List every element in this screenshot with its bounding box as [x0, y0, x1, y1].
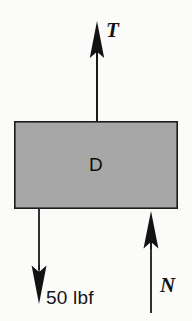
tension-arrow-head — [90, 21, 104, 59]
tension-force-label: T — [106, 20, 119, 41]
normal-arrow-head — [144, 211, 159, 249]
body-label: D — [89, 155, 103, 174]
weight-arrow-head — [32, 265, 47, 304]
free-body-diagram: T D 50 lbf N — [0, 0, 192, 321]
normal-force-label: N — [160, 275, 175, 296]
weight-force-label: 50 lbf — [46, 288, 94, 307]
